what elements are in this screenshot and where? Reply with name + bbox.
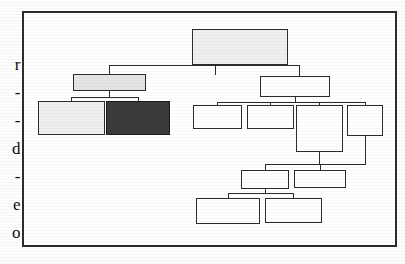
margin-char-4: - [0,168,20,185]
connector-lower-bus [265,164,366,165]
diagram-node-left-child-2 [106,101,170,135]
connector-c4-tail-down [365,136,366,164]
diagram-node-mid-right [294,170,346,188]
diagram-node-left-branch [73,74,146,91]
connector-root-bus [109,65,300,66]
diagram-node-bottom-left [196,198,260,224]
margin-char-5: e [0,196,20,213]
diagram-node-bottom-right [265,198,322,223]
diagram-node-root [192,29,288,65]
diagram-node-right-child-2 [247,105,294,129]
margin-char-1: - [0,84,20,101]
diagram-node-right-child-4 [347,105,383,136]
connector-root-down-right [299,65,300,76]
scanned-page: r--d-eo [0,0,405,264]
margin-char-6: o [0,224,20,241]
diagram-node-right-branch [260,76,330,97]
diagram-node-right-child-3 [296,105,343,152]
connector-bottom-bus [228,193,294,194]
connector-left-branch-stem [109,65,110,74]
diagram-node-right-child-1 [193,105,242,129]
margin-char-0: r [0,56,20,73]
figure-frame-border [22,11,397,247]
connector-root-down-left [215,65,216,75]
hierarchy-diagram [24,13,399,249]
margin-char-2: - [0,112,20,129]
connector-c3-tail-down [319,152,320,164]
diagram-node-mid-left [241,170,289,189]
left-margin-text-column: r--d-eo [0,0,22,264]
connector-right-bus [217,102,365,103]
diagram-node-left-child-1 [38,101,105,135]
connector-left-branch-bus [71,97,139,98]
margin-char-3: d [0,140,20,157]
